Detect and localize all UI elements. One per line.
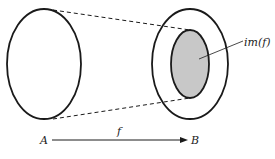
codomain-label: B bbox=[190, 134, 199, 147]
domain-label: A bbox=[39, 134, 48, 147]
lower-dashed-line bbox=[53, 98, 190, 119]
map-label: f bbox=[116, 125, 123, 138]
arrow-head-icon bbox=[180, 137, 188, 143]
domain-set-a bbox=[7, 9, 81, 119]
upper-dashed-line bbox=[53, 10, 190, 30]
image-set bbox=[171, 30, 209, 98]
image-label: im(f) bbox=[244, 36, 271, 49]
function-image-diagram: im(f) A B f bbox=[0, 0, 275, 159]
